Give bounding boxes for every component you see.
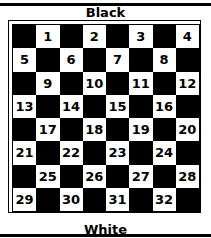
dark-square [36,188,59,211]
dark-square [83,141,106,164]
dark-square [176,48,199,71]
dark-square [106,165,129,188]
numbered-square: 12 [176,72,199,95]
dark-square [13,72,36,95]
numbered-square: 10 [83,72,106,95]
bottom-rule [0,234,211,237]
dark-square [36,141,59,164]
dark-square [83,95,106,118]
numbered-square: 29 [13,188,36,211]
dark-square [106,72,129,95]
numbered-square: 30 [60,188,83,211]
numbered-square: 4 [176,25,199,48]
numbered-square: 13 [13,95,36,118]
numbered-square: 24 [153,141,176,164]
dark-square [60,118,83,141]
numbered-square: 26 [83,165,106,188]
dark-square [129,188,152,211]
numbered-square: 9 [36,72,59,95]
numbered-square: 7 [106,48,129,71]
numbered-square: 8 [153,48,176,71]
numbered-square: 17 [36,118,59,141]
dark-square [176,95,199,118]
numbered-square: 27 [129,165,152,188]
numbered-square: 1 [36,25,59,48]
dark-square [83,188,106,211]
dark-square [153,72,176,95]
numbered-square: 21 [13,141,36,164]
dark-square [176,141,199,164]
numbered-square: 20 [176,118,199,141]
checkerboard: 1234567891011121314151617181920212223242… [12,24,200,212]
dark-square [106,118,129,141]
dark-square [106,25,129,48]
numbered-square: 25 [36,165,59,188]
numbered-square: 22 [60,141,83,164]
numbered-square: 31 [106,188,129,211]
numbered-square: 32 [153,188,176,211]
dark-square [129,141,152,164]
dark-square [13,165,36,188]
top-side-label: Black [0,5,211,20]
dark-square [60,25,83,48]
numbered-square: 3 [129,25,152,48]
dark-square [60,72,83,95]
numbered-square: 18 [83,118,106,141]
dark-square [36,95,59,118]
dark-square [129,48,152,71]
numbered-square: 16 [153,95,176,118]
dark-square [129,95,152,118]
dark-square [153,118,176,141]
numbered-square: 15 [106,95,129,118]
dark-square [176,188,199,211]
numbered-square: 23 [106,141,129,164]
numbered-square: 6 [60,48,83,71]
dark-square [13,25,36,48]
numbered-square: 28 [176,165,199,188]
dark-square [60,165,83,188]
dark-square [13,118,36,141]
dark-square [83,48,106,71]
numbered-square: 14 [60,95,83,118]
dark-square [36,48,59,71]
numbered-square: 5 [13,48,36,71]
dark-square [153,165,176,188]
numbered-square: 11 [129,72,152,95]
dark-square [153,25,176,48]
numbered-square: 19 [129,118,152,141]
numbered-square: 2 [83,25,106,48]
